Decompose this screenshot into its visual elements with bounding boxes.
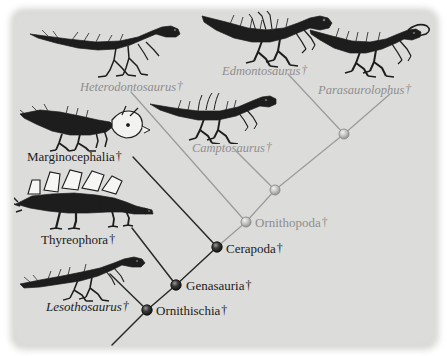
dagger-camptosaurus: † bbox=[265, 141, 272, 153]
label-ornithopoda: Ornithopoda† bbox=[255, 216, 328, 229]
label-edmontosaurus-text: Edmontosaurus bbox=[222, 64, 300, 78]
node-ornithopoda[interactable] bbox=[241, 217, 251, 227]
label-thyreophora: Thyreophora† bbox=[41, 233, 115, 246]
skeleton-heterodontosaurus bbox=[28, 18, 188, 80]
label-edmontosaurus: Edmontosaurus† bbox=[222, 65, 307, 78]
label-parasaurolophus: Parasaurolophus† bbox=[318, 84, 411, 97]
dagger-parasaurolophus: † bbox=[404, 83, 411, 95]
label-camptosaurus-text: Camptosaurus bbox=[192, 141, 265, 155]
dagger-genasauria: † bbox=[244, 278, 251, 292]
label-lesothosaurus-text: Lesothosaurus bbox=[46, 299, 122, 314]
node-genasauria[interactable] bbox=[171, 280, 181, 290]
label-cerapoda: Cerapoda† bbox=[226, 242, 283, 255]
node-ornithischia[interactable] bbox=[142, 305, 152, 315]
dagger-heterodontosaurus: † bbox=[176, 80, 183, 92]
skeleton-camptosaurus bbox=[148, 88, 286, 144]
dagger-marginocephalia: † bbox=[115, 149, 122, 163]
cladogram-figure: Heterodontosaurus† Edmontosaurus† Parasa… bbox=[0, 0, 447, 356]
label-heterodontosaurus-text: Heterodontosaurus bbox=[80, 80, 176, 94]
label-genasauria-text: Genasauria bbox=[186, 278, 244, 293]
label-ornithischia-text: Ornithischia bbox=[156, 303, 220, 318]
label-parasaurolophus-text: Parasaurolophus bbox=[318, 83, 404, 97]
label-marginocephalia-text: Marginocephalia bbox=[27, 149, 115, 164]
label-cerapoda-text: Cerapoda bbox=[226, 241, 276, 256]
label-ornithopoda-text: Ornithopoda bbox=[255, 215, 321, 230]
dagger-cerapoda: † bbox=[276, 241, 283, 255]
dagger-ornithischia: † bbox=[220, 303, 227, 317]
node-cerapoda[interactable] bbox=[212, 242, 222, 252]
node-hadrosauroid[interactable] bbox=[270, 185, 280, 195]
skeleton-thyreophora bbox=[14, 168, 154, 230]
label-thyreophora-text: Thyreophora bbox=[41, 232, 108, 247]
dagger-edmontosaurus: † bbox=[300, 64, 307, 76]
dagger-thyreophora: † bbox=[108, 232, 115, 246]
label-genasauria: Genasauria† bbox=[186, 279, 251, 292]
dagger-lesothosaurus: † bbox=[122, 299, 129, 313]
skeleton-parasaurolophus bbox=[308, 20, 436, 78]
label-camptosaurus: Camptosaurus† bbox=[192, 142, 272, 155]
skeleton-lesothosaurus bbox=[18, 250, 154, 302]
label-lesothosaurus: Lesothosaurus† bbox=[46, 300, 129, 313]
dagger-ornithopoda: † bbox=[321, 215, 328, 229]
skeleton-marginocephalia bbox=[18, 100, 150, 152]
label-marginocephalia: Marginocephalia† bbox=[27, 150, 122, 163]
label-heterodontosaurus: Heterodontosaurus† bbox=[80, 81, 183, 94]
node-hadrosaurid[interactable] bbox=[339, 129, 349, 139]
label-ornithischia: Ornithischia† bbox=[156, 304, 227, 317]
